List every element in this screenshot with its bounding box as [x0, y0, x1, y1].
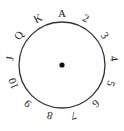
rank-label: A [58, 8, 66, 19]
center-dot [59, 62, 64, 67]
circle-diagram [0, 0, 124, 131]
card-rank-clock-diagram: A2345678910JQK [0, 0, 124, 131]
rank-label: 4 [108, 55, 120, 62]
